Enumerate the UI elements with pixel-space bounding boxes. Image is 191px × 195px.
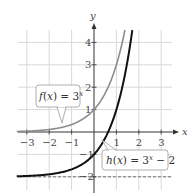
x-tick-label: −3 [20, 137, 35, 148]
h-label-text: h(x) = 3x − 2 [106, 154, 175, 166]
x-axis-arrow-icon [173, 130, 179, 135]
exponential-graph: xy−3−2−1123−2−11234f(x) = 3xh(x) = 3x − … [0, 0, 191, 195]
x-tick-label: 2 [136, 137, 142, 148]
y-tick-label: 4 [85, 37, 91, 48]
y-axis-arrow-icon [92, 23, 97, 29]
x-tick-label: −1 [65, 137, 80, 148]
f-label-pointer [57, 107, 66, 123]
y-tick-label: 2 [85, 82, 91, 93]
x-tick-label: −2 [42, 137, 57, 148]
y-axis-label: y [89, 10, 96, 21]
f-label-text: f(x) = 3x [38, 90, 83, 102]
y-tick-label: 3 [85, 59, 91, 70]
x-tick-label: 1 [113, 137, 119, 148]
x-tick-label: 3 [158, 137, 164, 148]
y-tick-label: −2 [79, 171, 94, 182]
f-curve [17, 30, 125, 132]
x-axis-label: x [182, 126, 188, 137]
